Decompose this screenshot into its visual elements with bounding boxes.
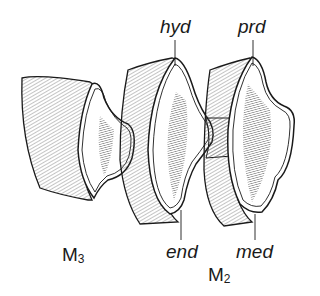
- label-m3: M3: [62, 245, 85, 265]
- label-protoconid: prd: [238, 17, 265, 36]
- tooth-m3: [22, 77, 134, 200]
- label-hypoconid: hyd: [160, 17, 191, 36]
- tooth-m2-posterior: [120, 58, 213, 224]
- label-m2: M2: [208, 265, 231, 285]
- label-entoconid: end: [166, 242, 198, 261]
- label-metaconid: med: [236, 242, 273, 261]
- tooth-m2-anterior: [204, 57, 294, 226]
